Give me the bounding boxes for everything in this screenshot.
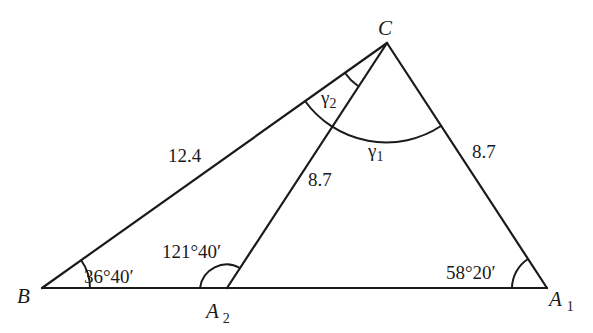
angle-label-gamma2: γ2: [320, 87, 336, 111]
side-c-a1: [387, 43, 547, 288]
angle-label-a2: 121°40′: [162, 241, 221, 262]
vertex-label-a2: A2: [204, 299, 230, 326]
vertex-label-c: C: [378, 16, 393, 40]
side-length-ca2: 8.7: [308, 169, 332, 190]
triangle-diagram: B A2 A1 C 12.4 8.7 8.7 36°40′ 121°40′ 58…: [0, 0, 593, 333]
vertex-label-b: B: [17, 284, 30, 308]
vertex-label-a1: A1: [547, 287, 574, 314]
angle-label-gamma1: γ1: [367, 140, 383, 164]
angle-arc-gamma2: [345, 73, 358, 86]
angle-label-a1: 58°20′: [446, 262, 496, 283]
angle-arc-a1: [512, 259, 528, 288]
side-c-a2: [227, 43, 387, 288]
side-length-ca1: 8.7: [472, 141, 496, 162]
side-length-bc: 12.4: [168, 145, 202, 166]
angle-label-b: 36°40′: [84, 266, 134, 287]
